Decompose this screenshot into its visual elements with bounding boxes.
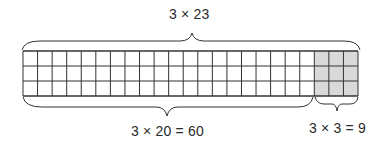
bottom-left-brace: [23, 97, 313, 116]
top-brace: [22, 33, 360, 50]
shaded-region: [314, 51, 358, 96]
bottom-right-brace: [315, 97, 358, 111]
bottom-right-label: 3 × 3 = 9: [309, 120, 366, 136]
bottom-left-label: 3 × 20 = 60: [131, 123, 204, 139]
top-label: 3 × 23: [169, 6, 210, 22]
grid-lines: [23, 51, 358, 96]
